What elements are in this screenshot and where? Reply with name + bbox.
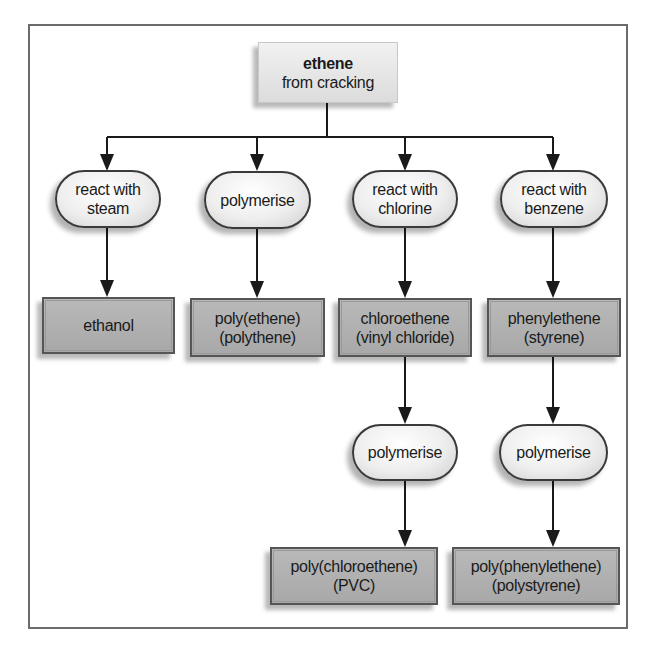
product-label: phenylethene <box>508 309 601 328</box>
product-label: (polythene) <box>219 328 296 347</box>
process-label: chlorine <box>378 199 432 218</box>
arrow-icon <box>250 281 264 298</box>
process-label: polymerise <box>368 443 442 462</box>
product-label: poly(phenylethene) <box>471 557 602 576</box>
process-label: benzene <box>524 199 583 218</box>
process-polymerise-phenylethene: polymerise <box>499 424 608 481</box>
process-react-with-chlorine: react with chlorine <box>352 170 458 228</box>
product-label: poly(ethene) <box>215 309 300 328</box>
product-polystyrene: poly(phenylethene) (polystyrene) <box>452 547 620 605</box>
source-subtitle: from cracking <box>282 73 374 92</box>
arrow-icon <box>546 530 560 547</box>
process-label: react with <box>521 180 586 199</box>
arrow-icon <box>250 154 264 171</box>
process-react-with-benzene: react with benzene <box>500 170 608 228</box>
process-label: react with <box>372 180 437 199</box>
product-pvc: poly(chloroethene) (PVC) <box>270 547 438 605</box>
product-label: (vinyl chloride) <box>356 328 454 347</box>
process-label: steam <box>87 199 129 218</box>
arrow-icon <box>398 530 412 547</box>
source-title: ethene <box>303 54 353 73</box>
product-label: ethanol <box>83 316 133 335</box>
process-polymerise-chloroethene: polymerise <box>352 424 458 481</box>
process-label: polymerise <box>220 191 294 210</box>
source-node-ethene: ethene from cracking <box>258 42 398 103</box>
arrow-icon <box>546 407 560 424</box>
arrow-icon <box>100 154 114 171</box>
product-label: (PVC) <box>333 576 375 595</box>
arrow-icon <box>398 154 412 171</box>
arrow-icon <box>546 281 560 298</box>
arrow-icon <box>100 280 114 297</box>
product-ethanol: ethanol <box>42 297 175 354</box>
process-react-with-steam: react with steam <box>55 170 161 228</box>
arrow-icon <box>398 407 412 424</box>
product-label: poly(chloroethene) <box>290 557 417 576</box>
product-chloroethene: chloroethene (vinyl chloride) <box>338 298 472 357</box>
process-label: react with <box>75 180 140 199</box>
product-phenylethene: phenylethene (styrene) <box>487 298 621 357</box>
product-polyethene: poly(ethene) (polythene) <box>190 298 325 357</box>
arrow-icon <box>398 281 412 298</box>
process-polymerise-1: polymerise <box>204 171 311 229</box>
product-label: (styrene) <box>524 328 584 347</box>
process-label: polymerise <box>516 443 590 462</box>
arrow-icon <box>546 154 560 171</box>
product-label: (polystyrene) <box>492 576 581 595</box>
product-label: chloroethene <box>361 309 450 328</box>
